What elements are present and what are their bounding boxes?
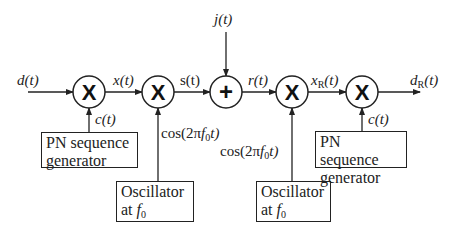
pn-generator-rx: PN sequence generator xyxy=(315,131,407,168)
osc-tx-line1: Oscillator xyxy=(121,183,189,201)
pn-rx-line1: PN sequence xyxy=(320,133,402,169)
label-carrier-rx: cos(2πf0t) xyxy=(220,144,278,163)
label-spread-signal: x(t) xyxy=(113,73,134,88)
label-jammer-signal: j(t) xyxy=(214,12,232,27)
block-diagram-wiring: X X + X X xyxy=(0,0,462,227)
plus-icon: + xyxy=(219,78,233,105)
pn-generator-tx: PN sequence generator xyxy=(41,132,138,168)
osc-rx-line1: Oscillator xyxy=(261,183,326,201)
label-received-signal: r(t) xyxy=(248,73,268,88)
label-modulated-signal: s(t) xyxy=(180,73,200,88)
pn-rx-line2: generator xyxy=(320,169,402,187)
osc-tx-line2: at f0 xyxy=(121,201,189,224)
label-demodulated-signal: xR(t) xyxy=(311,73,339,92)
label-pn-code-rx: c(t) xyxy=(368,112,389,127)
oscillator-tx: Oscillator at f0 xyxy=(116,181,194,222)
label-pn-code-tx: c(t) xyxy=(95,112,116,127)
multiply-icon: X xyxy=(285,80,300,105)
pn-tx-line1: PN sequence xyxy=(46,134,133,152)
label-input-signal: d(t) xyxy=(17,73,39,88)
pn-tx-line2: generator xyxy=(46,152,133,170)
label-carrier-tx: cos(2πf0t) xyxy=(161,126,219,145)
label-output-signal: dR(t) xyxy=(410,73,438,92)
multiply-icon: X xyxy=(82,80,97,105)
oscillator-rx: Oscillator at f0 xyxy=(256,181,331,222)
osc-rx-line2: at f0 xyxy=(261,201,326,224)
multiply-icon: X xyxy=(355,80,370,105)
multiply-icon: X xyxy=(151,80,166,105)
